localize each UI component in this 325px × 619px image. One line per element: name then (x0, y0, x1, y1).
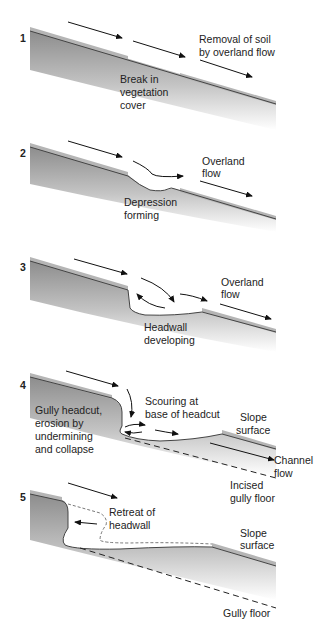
label-scouring: Scouring at base of headcut (145, 395, 220, 420)
label-removal-of-soil: Removal of soil by overland flow (199, 33, 275, 58)
label-gully-floor: Gully floor (223, 607, 271, 619)
label-overland-flow: Overland flow (202, 155, 248, 179)
panel-2: 2 Overland flow Depression forming (20, 141, 276, 232)
panel-number: 3 (20, 261, 26, 273)
panel-number: 5 (20, 491, 26, 503)
panel-4: 4 Gully headcut, erosion by undermining … (20, 371, 316, 504)
backflow-arrow (137, 294, 165, 308)
gully-formation-diagram: 1 Removal of soil by overland flow Break… (0, 0, 325, 619)
label-overland-flow: Overland flow (221, 276, 267, 300)
label-channel-flow: Channel flow (274, 454, 316, 479)
retreat-arrow (75, 522, 97, 524)
panel-1: 1 Removal of soil by overland flow Break… (20, 22, 276, 130)
flow-arrow (200, 181, 252, 196)
flow-arrow (133, 41, 185, 57)
panel-number: 4 (20, 379, 26, 391)
flow-arrow (68, 483, 117, 498)
label-slope-surface: Slope surface (240, 527, 275, 551)
flow-arrow (66, 371, 118, 386)
scour-backflow-arrow (125, 432, 142, 433)
panel-number: 2 (20, 147, 26, 159)
flow-arrow (68, 141, 122, 157)
flow-arrow (68, 22, 122, 38)
label-retreat-of-headwall: Retreat of headwall (109, 506, 158, 531)
panel-3: 3 Overland flow Headwall developing (20, 257, 276, 352)
flow-arrow (200, 60, 252, 77)
label-headwall-developing: Headwall developing (144, 321, 195, 346)
flow-arrow (155, 430, 178, 434)
falling-flow-arrow (127, 389, 132, 417)
label-incised-gully-floor: Incised gully floor (230, 479, 275, 504)
flow-arrow (74, 259, 127, 274)
flow-arrow (180, 294, 207, 301)
label-slope-surface: Slope surface (236, 411, 271, 436)
panel-number: 1 (20, 32, 26, 44)
flow-arrow-curved (141, 278, 174, 302)
scour-arrow (125, 424, 145, 427)
flow-arrow-curved (133, 161, 183, 177)
label-gully-headcut: Gully headcut, erosion by undermining an… (35, 404, 105, 455)
